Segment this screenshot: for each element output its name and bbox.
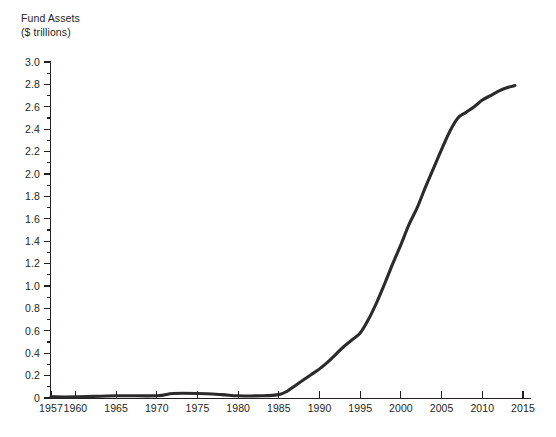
y-tick-label: 2.2: [25, 145, 40, 157]
x-tick-label: 2010: [470, 402, 494, 414]
y-tick-label: 1.8: [25, 190, 40, 202]
y-tick-label: 2.6: [25, 101, 40, 113]
y-tick-label: 2.8: [25, 78, 40, 90]
y-tick-label: 2.4: [25, 123, 40, 135]
y-axis-labels: 00.20.40.60.81.01.21.41.61.82.02.22.42.6…: [25, 56, 40, 404]
y-tick-label: 1.6: [25, 213, 40, 225]
x-tick-label: 2015: [511, 402, 535, 414]
y-tick-label: 3.0: [25, 56, 40, 68]
data-series-fund-assets: [51, 86, 515, 397]
y-tick-label: 1.0: [25, 280, 40, 292]
x-tick-label: 1975: [186, 402, 210, 414]
x-tick-label: 2000: [389, 402, 413, 414]
x-tick-label: 1990: [308, 402, 332, 414]
x-tick-label: 1965: [104, 402, 128, 414]
y-tick-label: 0.2: [25, 369, 40, 381]
y-tick-label: 1.2: [25, 257, 40, 269]
x-tick-label: 1980: [226, 402, 250, 414]
line-chart-plot: 00.20.40.60.81.01.21.41.61.82.02.22.42.6…: [0, 0, 556, 437]
chart-title: Fund Assets ($ trillions): [21, 12, 80, 39]
chart-container: Fund Assets ($ trillions) 00.20.40.60.81…: [0, 0, 556, 437]
chart-title-units: ($ trillions): [21, 26, 80, 40]
x-tick-label: 1985: [267, 402, 291, 414]
x-tick-label: 2005: [430, 402, 454, 414]
x-axis-labels: 1957196019651970197519801985199019952000…: [39, 402, 535, 414]
x-tick-label: 1995: [348, 402, 372, 414]
y-tick-label: 0.6: [25, 325, 40, 337]
y-tick-label: 2.0: [25, 168, 40, 180]
y-tick-label: 0.4: [25, 347, 40, 359]
x-tick-label: 1970: [145, 402, 169, 414]
x-tick-label: 1957: [39, 402, 63, 414]
y-tick-label: 1.4: [25, 235, 40, 247]
chart-title-main: Fund Assets: [21, 12, 80, 26]
x-tick-label: 1960: [64, 402, 88, 414]
y-tick-label: 0.8: [25, 302, 40, 314]
